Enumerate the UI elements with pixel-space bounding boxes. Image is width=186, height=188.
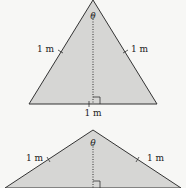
tall-triangle: θ 1 m 1 m 1 m: [29, 0, 157, 118]
diagram-canvas: θ 1 m 1 m 1 m θ 1 m 1 m: [0, 0, 186, 188]
base-label: 1 m: [84, 108, 102, 118]
theta-label: θ: [90, 11, 96, 21]
theta-label: θ: [90, 138, 96, 148]
side-right-label: 1 m: [147, 153, 165, 163]
side-left-label: 1 m: [26, 153, 44, 163]
side-right-label: 1 m: [131, 44, 149, 54]
wide-triangle: θ 1 m 1 m: [5, 130, 181, 188]
side-left-label: 1 m: [37, 44, 55, 54]
